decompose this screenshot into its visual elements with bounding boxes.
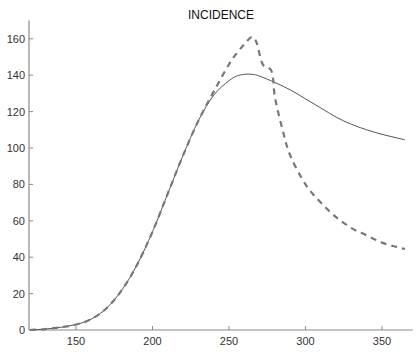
y-tick-label: 60 xyxy=(13,215,25,227)
x-tick-label: 150 xyxy=(67,335,85,347)
y-tick-label: 140 xyxy=(7,69,25,81)
x-tick-label: 250 xyxy=(220,335,238,347)
y-tick-label: 100 xyxy=(7,142,25,154)
x-tick-label: 350 xyxy=(373,335,391,347)
incidence-line-chart: INCIDENCE 150200250300350020406080100120… xyxy=(0,0,419,354)
y-tick-label: 20 xyxy=(13,288,25,300)
y-tick-label: 80 xyxy=(13,178,25,190)
y-tick-label: 160 xyxy=(7,33,25,45)
chart-title: INCIDENCE xyxy=(188,8,254,22)
x-tick-label: 300 xyxy=(296,335,314,347)
axes: 150200250300350020406080100120140160 xyxy=(7,21,413,347)
x-tick-label: 200 xyxy=(143,335,161,347)
series-line-dashed xyxy=(30,37,405,330)
y-tick-label: 120 xyxy=(7,106,25,118)
y-tick-label: 40 xyxy=(13,251,25,263)
series-group xyxy=(30,37,405,330)
y-tick-label: 0 xyxy=(19,324,25,336)
series-line-solid xyxy=(30,74,405,330)
